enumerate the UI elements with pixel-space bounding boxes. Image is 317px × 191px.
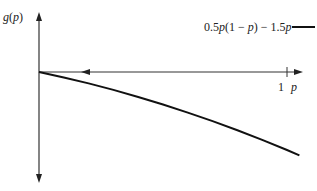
legend-label: 0.5p(1 − p) − 1.5p bbox=[204, 20, 292, 34]
chart: g(p) 1 p 0.5p(1 − p) − 1.5p bbox=[0, 0, 317, 191]
y-axis-down-arrow-icon bbox=[36, 174, 42, 183]
direction-left-arrow-icon bbox=[81, 69, 90, 75]
x-axis-right-arrow-icon bbox=[294, 69, 303, 75]
y-axis-label: g(p) bbox=[3, 10, 23, 24]
y-axis-up-arrow-icon bbox=[36, 12, 42, 21]
x-axis-label: p bbox=[290, 80, 297, 94]
x-tick-label-1: 1 bbox=[278, 80, 284, 94]
curve-series bbox=[39, 72, 299, 155]
